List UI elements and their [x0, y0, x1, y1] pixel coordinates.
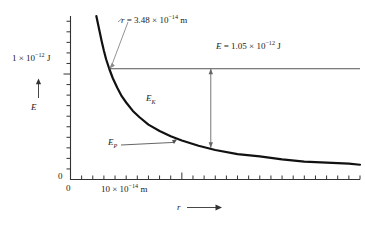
x-axis-title: r [177, 203, 181, 212]
y-axis-tick-label: 1 × 10−12 J [12, 54, 50, 63]
y-tick-mantissa: 1 × 10 [12, 53, 35, 63]
energy-annotation-eq: = 1.05 × 10 [222, 41, 266, 51]
radius-annotation-unit: m [178, 15, 187, 25]
radius-annotation-exponent: −14 [168, 14, 178, 20]
x-axis-title-arrow [187, 205, 222, 211]
y-axis-ticks [64, 21, 71, 169]
radius-annotation-eq: = 3.48 × 10 [125, 15, 169, 25]
energy-annotation-exponent: −12 [265, 40, 275, 46]
potential-energy-curve [96, 16, 360, 165]
x-axis-ticks [82, 173, 360, 180]
kinetic-energy-label: EK [146, 94, 156, 103]
energy-annotation-text: E = 1.05 × 10−12 J [216, 42, 281, 51]
x-axis-tick-label: 10 × 10−14 m [101, 185, 147, 194]
chart-canvas [0, 0, 365, 225]
radius-annotation-leader [109, 19, 128, 69]
y-tick-suffix: J [45, 53, 51, 63]
potential-energy-pointer-leader [121, 139, 177, 145]
x-tick-exponent: −14 [129, 183, 139, 189]
x-tick-suffix: m [138, 184, 147, 194]
y-axis-title-arrow [36, 79, 41, 99]
potential-energy-subscript: P [114, 143, 118, 149]
y-axis-title: E [31, 103, 37, 112]
energy-annotation-unit: J [275, 41, 281, 51]
y-tick-exponent: −12 [35, 52, 45, 58]
x-tick-mantissa: 10 × 10 [101, 184, 129, 194]
kinetic-energy-subscript: K [152, 99, 156, 105]
radius-annotation-text: r = 3.48 × 10−14 m [121, 16, 187, 25]
potential-energy-label: EP [108, 138, 117, 147]
y-origin-label: 0 [58, 172, 63, 181]
energy-vs-radius-chart: 1 × 10−12 J E 0 0 10 × 10−14 m r r = 3.4… [0, 0, 365, 225]
x-origin-label: 0 [66, 184, 71, 193]
kinetic-energy-arrow [209, 69, 213, 148]
